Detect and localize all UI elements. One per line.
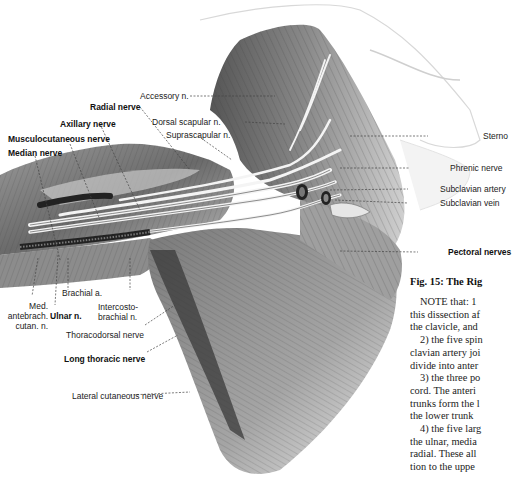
label-medial-antebrachial-cutaneous-nerve: Med. antebrach. cutan. n. [0,301,48,331]
body-line: trunks form the l [410,398,516,411]
body-line: the clavicle, and [410,321,516,334]
body-line: NOTE that: 1 [410,296,516,309]
figure-caption: Fig. 15: The Rig [410,276,516,287]
label-sterno: Sterno [483,131,508,141]
body-line: the lower trunk [410,410,516,423]
body-line: 3) the three po [410,372,516,385]
label-thoracodorsal-nerve: Thoracodorsal nerve [66,330,144,340]
label-radial-nerve: Radial nerve [90,102,141,112]
label-long-thoracic-nerve: Long thoracic nerve [64,354,145,364]
label-subclavian-vein: Subclavian vein [440,198,500,208]
body-line: clavian artery joi [410,347,516,360]
body-line: 2) the five spin [410,334,516,347]
label-axillary-nerve: Axillary nerve [60,119,116,129]
body-line: the ulnar, media [410,436,516,449]
body-line: radial. These all [410,448,516,461]
body-line: 4) the five larg [410,423,516,436]
body-line: cord. The anteri [410,385,516,398]
body-line: tion to the uppe [410,461,516,474]
label-median-nerve: Median nerve [8,148,62,158]
body-line: divide into anter [410,360,516,373]
label-pectoral-nerves: Pectoral nerves [448,247,511,257]
body-line: this dissection af [410,309,516,322]
body-text: NOTE that: 1 this dissection af the clav… [410,296,516,474]
label-suprascapular-nerve: Suprascapular n. [166,130,230,140]
label-intercostobrachial-nerve: Intercosto- brachial n. [98,302,158,322]
label-brachial-artery: Brachial a. [62,288,102,298]
label-ulnar-nerve: Ulnar n. [50,311,82,321]
label-subclavian-artery: Subclavian artery [440,184,506,194]
label-phrenic-nerve: Phrenic nerve [450,163,502,173]
label-musculocutaneous-nerve: Musculocutaneous nerve [8,134,110,144]
label-accessory-nerve: Accessory n. [140,91,189,101]
label-lateral-cutaneous-nerve: Lateral cutaneous nerve [72,391,163,401]
label-dorsal-scapular-nerve: Dorsal scapular n. [152,117,221,127]
